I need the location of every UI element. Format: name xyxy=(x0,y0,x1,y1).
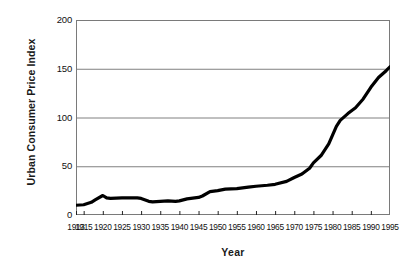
y-tick-label-100: 100 xyxy=(38,112,72,123)
gridlines xyxy=(76,21,390,167)
x-tick-label-1990: 1990 xyxy=(362,222,379,232)
y-tick-label-0: 0 xyxy=(38,209,72,220)
y-tick-label-150: 150 xyxy=(38,63,72,74)
x-tick-label-1975: 1975 xyxy=(305,222,322,232)
x-tick-label-1995: 1995 xyxy=(381,222,398,232)
x-tick-label-1955: 1955 xyxy=(228,222,245,232)
x-tick-label-1915: 1915 xyxy=(75,222,92,232)
x-tick-label-1980: 1980 xyxy=(324,222,341,232)
x-tick-label-1985: 1985 xyxy=(343,222,360,232)
x-tick-label-1925: 1925 xyxy=(113,222,130,232)
x-tick-label-1945: 1945 xyxy=(190,222,207,232)
cpi-line-chart-figure: Urban Consumer Price Index 050100150200 … xyxy=(0,0,420,272)
chart-line-svg xyxy=(76,20,390,215)
x-tick-label-1920: 1920 xyxy=(94,222,111,232)
y-tick-label-50: 50 xyxy=(38,160,72,171)
data-series-line xyxy=(76,67,390,205)
plot-area xyxy=(76,20,390,215)
x-tick-label-1930: 1930 xyxy=(132,222,149,232)
y-tick-label-200: 200 xyxy=(38,14,72,25)
x-axis-title: Year xyxy=(76,246,390,258)
x-tick-label-1970: 1970 xyxy=(286,222,303,232)
x-tick-label-1940: 1940 xyxy=(171,222,188,232)
x-tick-label-1965: 1965 xyxy=(266,222,283,232)
x-tick-label-1935: 1935 xyxy=(152,222,169,232)
x-tick-label-1960: 1960 xyxy=(247,222,264,232)
x-axis-tick-labels: 1913191519201925193019351940194519501955… xyxy=(0,222,420,238)
x-tick-label-1950: 1950 xyxy=(209,222,226,232)
